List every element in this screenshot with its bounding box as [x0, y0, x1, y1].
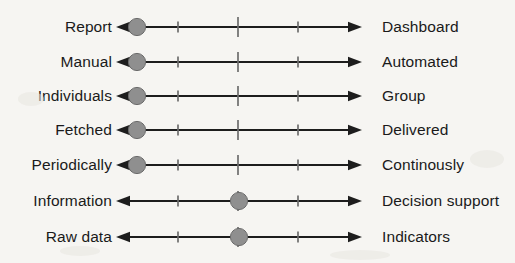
scale-right-label: Continously: [382, 157, 512, 173]
arrow-right-icon: [348, 232, 362, 242]
scale-axis: [116, 113, 362, 147]
scale-right-label: Automated: [382, 54, 512, 70]
scale-left-label: Raw data: [8, 229, 112, 245]
scale-axis: [116, 184, 362, 218]
scale-row: FetchedDelivered: [0, 113, 515, 147]
scale-axis: [116, 79, 362, 113]
scale-row: ManualAutomated: [0, 45, 515, 79]
scale-marker: [128, 18, 145, 35]
scale-right-label: Delivered: [382, 122, 512, 138]
scale-marker: [128, 53, 145, 70]
scale-left-label: Report: [8, 19, 112, 35]
arrow-right-icon: [348, 125, 362, 135]
scale-row: IndividualsGroup: [0, 79, 515, 113]
scale-left-label: Individuals: [8, 88, 112, 104]
scale-right-label: Decision support: [382, 193, 512, 209]
scale-row: InformationDecision support: [0, 184, 515, 218]
scale-left-label: Fetched: [8, 122, 112, 138]
arrow-right-icon: [348, 57, 362, 67]
scale-left-label: Manual: [8, 54, 112, 70]
bipolar-scale-diagram: ReportDashboardManualAutomatedIndividual…: [0, 0, 515, 263]
scale-axis: [116, 45, 362, 79]
scale-row: PeriodicallyContinously: [0, 148, 515, 182]
scale-row: Raw dataIndicators: [0, 220, 515, 254]
scale-axis: [116, 10, 362, 44]
arrow-left-icon: [116, 196, 130, 206]
scale-left-label: Periodically: [8, 157, 112, 173]
arrow-right-icon: [348, 160, 362, 170]
scale-marker: [128, 121, 145, 138]
arrow-right-icon: [348, 196, 362, 206]
scale-marker: [230, 228, 247, 245]
scale-marker: [128, 87, 145, 104]
arrow-right-icon: [348, 91, 362, 101]
scale-right-label: Group: [382, 88, 512, 104]
arrow-left-icon: [116, 232, 130, 242]
scale-axis: [116, 220, 362, 254]
scale-marker: [128, 156, 145, 173]
scale-right-label: Indicators: [382, 229, 512, 245]
arrow-right-icon: [348, 22, 362, 32]
scale-axis: [116, 148, 362, 182]
scale-marker: [230, 192, 247, 209]
scale-right-label: Dashboard: [382, 19, 512, 35]
scale-row: ReportDashboard: [0, 10, 515, 44]
scale-left-label: Information: [8, 193, 112, 209]
